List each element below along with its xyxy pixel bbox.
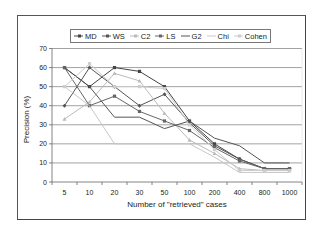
legend-item-g2: G2 bbox=[181, 32, 202, 41]
data-point bbox=[163, 119, 166, 122]
y-tick-label: 70 bbox=[39, 45, 47, 52]
y-tick-label: 60 bbox=[39, 64, 47, 71]
y-tick-label: 30 bbox=[39, 121, 47, 128]
y-tick-label: 50 bbox=[39, 83, 47, 90]
data-point bbox=[188, 123, 191, 126]
legend-item-ws: WS bbox=[102, 32, 125, 41]
x-tick-label: 5 bbox=[63, 189, 67, 196]
x-tick-label: 20 bbox=[111, 189, 119, 196]
legend-item-c2: C2 bbox=[130, 32, 151, 41]
legend-swatch-icon bbox=[207, 33, 216, 39]
legend-swatch-icon bbox=[102, 33, 111, 39]
legend-swatch-icon bbox=[234, 33, 243, 39]
x-tick-label: 50 bbox=[161, 189, 169, 196]
x-tick-label: 1000 bbox=[282, 189, 298, 196]
data-point bbox=[263, 169, 266, 172]
x-tick-label: 200 bbox=[209, 189, 221, 196]
x-axis-label: Number of "retrieved" cases bbox=[0, 200, 324, 209]
series-line-md bbox=[65, 68, 290, 169]
data-point bbox=[138, 85, 141, 88]
data-point bbox=[63, 85, 66, 88]
data-point bbox=[288, 169, 291, 172]
data-point bbox=[113, 85, 116, 88]
legend-label: MD bbox=[85, 32, 97, 41]
x-tick-label: 400 bbox=[234, 189, 246, 196]
legend-label: G2 bbox=[192, 32, 202, 41]
data-point bbox=[213, 148, 216, 151]
legend-label: Chi bbox=[218, 32, 229, 41]
x-tick-label: 100 bbox=[184, 189, 196, 196]
legend-item-ls: LS bbox=[155, 32, 175, 41]
data-point bbox=[138, 70, 141, 73]
series-line-ws bbox=[65, 68, 290, 169]
legend-item-cohen: Cohen bbox=[234, 32, 267, 41]
series-line-c2 bbox=[65, 73, 290, 170]
data-point bbox=[113, 66, 116, 69]
y-tick-label: 20 bbox=[39, 140, 47, 147]
legend-label: LS bbox=[166, 32, 175, 41]
data-point bbox=[113, 95, 116, 98]
data-point bbox=[188, 129, 191, 132]
x-tick-label: 10 bbox=[86, 189, 94, 196]
data-point bbox=[138, 110, 141, 113]
data-point bbox=[88, 62, 91, 65]
series-line-g2 bbox=[65, 68, 290, 163]
series-line-chi bbox=[65, 87, 290, 173]
legend-item-md: MD bbox=[74, 32, 97, 41]
y-axis-label: Precision (%) bbox=[22, 90, 31, 150]
legend-label: WS bbox=[113, 32, 125, 41]
legend-swatch-icon bbox=[155, 33, 164, 39]
x-tick-label: 30 bbox=[136, 189, 144, 196]
y-tick-label: 10 bbox=[39, 159, 47, 166]
legend-label: Cohen bbox=[245, 32, 267, 41]
legend-label: C2 bbox=[141, 32, 151, 41]
y-tick-label: 40 bbox=[39, 102, 47, 109]
x-tick-label: 800 bbox=[259, 189, 271, 196]
legend-item-chi: Chi bbox=[207, 32, 229, 41]
data-point bbox=[163, 87, 166, 90]
data-point bbox=[238, 169, 241, 172]
data-point bbox=[238, 159, 241, 162]
series-line-ls bbox=[65, 68, 290, 169]
legend-swatch-icon bbox=[74, 33, 83, 39]
legend-swatch-icon bbox=[181, 33, 190, 39]
legend-swatch-icon bbox=[130, 33, 139, 39]
y-tick-label: 0 bbox=[43, 179, 47, 186]
data-point bbox=[113, 71, 117, 75]
legend: MDWSC2LSG2ChiCohen bbox=[70, 29, 271, 43]
